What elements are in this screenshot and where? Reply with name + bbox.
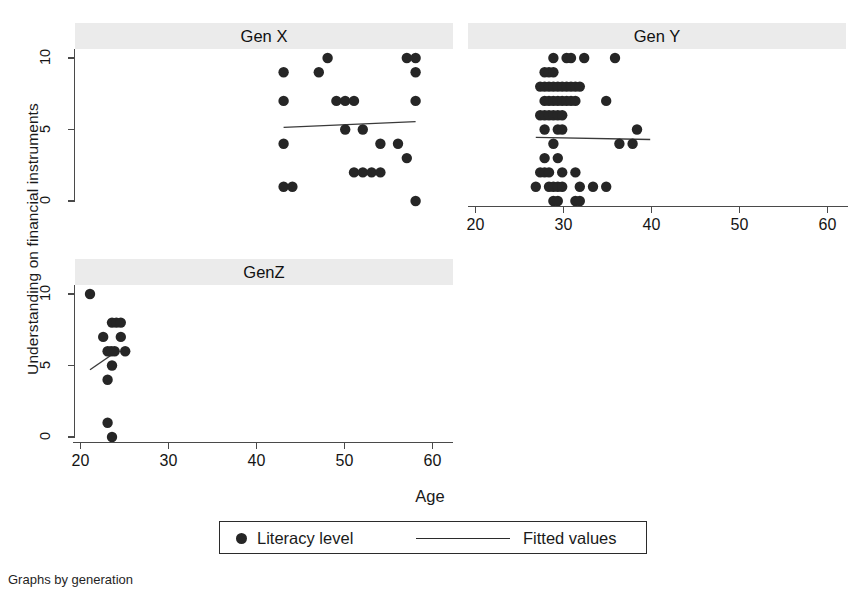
x-tick-label: 40: [632, 216, 672, 234]
data-point: [278, 96, 288, 106]
figure-canvas: Understanding on financial instruments A…: [0, 0, 861, 606]
y-axis-title: Understanding on financial instruments: [24, 39, 42, 439]
panel-gen-z: GenZ: [75, 259, 453, 459]
data-point: [314, 67, 324, 77]
scatter-plot-gen-x: [75, 49, 453, 223]
y-axis-line-gen-x: [60, 49, 76, 201]
legend-label-fitted-values: Fitted values: [523, 528, 617, 548]
y-tick-label: 5: [37, 116, 53, 142]
data-point: [340, 124, 350, 134]
data-point: [102, 375, 112, 385]
scatter-plot-gen-y: [468, 49, 846, 223]
x-tick-label: 20: [456, 216, 496, 234]
x-tick-label: 20: [61, 452, 101, 470]
y-tick-label: 0: [37, 423, 53, 449]
data-point: [548, 67, 558, 77]
data-point: [109, 346, 119, 356]
x-tick-label: 50: [720, 216, 760, 234]
data-point: [375, 167, 385, 177]
data-point: [410, 53, 420, 63]
data-point: [358, 124, 368, 134]
y-axis-gen-z: [60, 285, 76, 437]
y-tick-label: 5: [37, 352, 53, 378]
data-point: [579, 53, 589, 63]
legend-dot-icon: [236, 533, 247, 544]
plot-area-gen-y: [468, 49, 846, 223]
data-point: [410, 196, 420, 206]
data-point: [553, 153, 563, 163]
plot-area-gen-z: [75, 285, 453, 459]
data-point: [375, 139, 385, 149]
data-point: [410, 67, 420, 77]
y-tick-label: 10: [37, 280, 53, 306]
y-axis-line-gen-z: [60, 285, 76, 437]
data-point: [632, 124, 642, 134]
panel-title-gen-x: Gen X: [75, 24, 453, 48]
x-tick-label: 30: [149, 452, 189, 470]
data-point: [278, 139, 288, 149]
data-point: [544, 167, 554, 177]
data-point: [601, 182, 611, 192]
x-axis-line-gen-y: [468, 205, 850, 215]
panel-title-gen-y: Gen Y: [468, 24, 846, 48]
legend-label-literacy-level: Literacy level: [257, 528, 353, 548]
x-axis-gen-z: [73, 441, 455, 451]
data-point: [278, 67, 288, 77]
data-point: [102, 418, 112, 428]
data-point: [85, 289, 95, 299]
plot-area-gen-x: [75, 49, 453, 223]
data-point: [322, 53, 332, 63]
x-tick-label: 60: [808, 216, 848, 234]
data-point: [557, 167, 567, 177]
x-tick-label: 40: [237, 452, 277, 470]
y-axis-gen-x: [60, 49, 76, 201]
data-point: [627, 139, 637, 149]
x-tick-label: 30: [544, 216, 584, 234]
data-point: [566, 53, 576, 63]
data-point: [570, 96, 580, 106]
data-point: [575, 182, 585, 192]
data-point: [575, 81, 585, 91]
y-tick-label: 0: [37, 187, 53, 213]
y-tick-label: 10: [37, 44, 53, 70]
data-point: [287, 182, 297, 192]
data-point: [610, 53, 620, 63]
panel-gen-y: Gen Y: [468, 23, 846, 223]
figure-footnote: Graphs by generation: [8, 572, 133, 587]
data-point: [570, 167, 580, 177]
data-point: [349, 96, 359, 106]
data-point: [402, 153, 412, 163]
data-point: [393, 139, 403, 149]
data-point: [557, 182, 567, 192]
panel-title-gen-z: GenZ: [75, 260, 453, 284]
data-point: [548, 139, 558, 149]
data-point: [116, 332, 126, 342]
legend: Literacy level Fitted values: [219, 521, 647, 554]
panel-gen-x: Gen X: [75, 23, 453, 223]
x-tick-label: 60: [413, 452, 453, 470]
data-point: [557, 110, 567, 120]
x-tick-label: 50: [325, 452, 365, 470]
data-point: [107, 360, 117, 370]
x-axis-title: Age: [330, 487, 530, 506]
x-axis-gen-y: [468, 205, 850, 215]
data-point: [548, 53, 558, 63]
data-point: [614, 139, 624, 149]
fitted-values-line: [284, 122, 416, 128]
data-point: [98, 332, 108, 342]
data-point: [539, 153, 549, 163]
data-point: [120, 346, 130, 356]
data-point: [410, 96, 420, 106]
data-point: [588, 182, 598, 192]
scatter-plot-gen-z: [75, 285, 453, 459]
data-point: [557, 124, 567, 134]
x-axis-line-gen-z: [73, 441, 455, 451]
data-point: [601, 96, 611, 106]
data-point: [116, 317, 126, 327]
legend-line-icon: [416, 538, 510, 539]
data-point: [531, 182, 541, 192]
data-point: [539, 124, 549, 134]
